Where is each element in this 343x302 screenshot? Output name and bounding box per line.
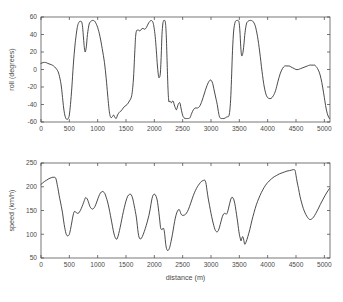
y-tick-label-roll-1: -40 xyxy=(27,101,37,108)
y-tick-label-speed-2: 150 xyxy=(26,207,37,214)
x-tick-label-roll-2: 1000 xyxy=(90,125,105,132)
y-tick-label-speed-3: 200 xyxy=(26,183,37,190)
x-tick-label-roll-7: 3500 xyxy=(232,125,247,132)
x-tick-label-roll-5: 2500 xyxy=(175,125,190,132)
y-tick-label-roll-0: -60 xyxy=(27,118,37,125)
y-tick-label-roll-2: -20 xyxy=(27,83,37,90)
x-tick-label-speed-9: 4500 xyxy=(289,261,304,268)
y-axis-title-speed: speed (km/h) xyxy=(7,190,16,232)
y-axis-title-roll: roll (degrees) xyxy=(7,48,16,90)
roll-vs-distance-chart: -60-40-200204060050010001500200025003000… xyxy=(0,0,343,151)
x-tick-label-roll-9: 4500 xyxy=(289,125,304,132)
x-tick-label-speed-8: 4000 xyxy=(260,261,275,268)
plot-box-speed xyxy=(41,163,330,258)
x-tick-label-roll-0: 0 xyxy=(39,125,43,132)
x-tick-label-speed-0: 0 xyxy=(39,261,43,268)
chart-panel-speed: 5010015020025005001000150020002500300035… xyxy=(0,151,343,302)
x-tick-label-speed-1: 500 xyxy=(64,261,75,268)
speed-vs-distance-chart: 5010015020025005001000150020002500300035… xyxy=(0,151,343,302)
figure-container: -60-40-200204060050010001500200025003000… xyxy=(0,0,343,302)
data-series-roll-roll xyxy=(41,20,329,119)
y-tick-label-speed-1: 100 xyxy=(26,231,37,238)
x-tick-label-speed-10: 5000 xyxy=(317,261,332,268)
x-tick-label-speed-3: 1500 xyxy=(119,261,134,268)
x-tick-label-speed-4: 2000 xyxy=(147,261,162,268)
y-tick-label-speed-0: 50 xyxy=(30,254,38,261)
y-tick-label-roll-3: 0 xyxy=(33,66,37,73)
chart-panel-roll: -60-40-200204060050010001500200025003000… xyxy=(0,0,343,151)
x-tick-label-speed-6: 3000 xyxy=(204,261,219,268)
x-tick-label-speed-2: 1000 xyxy=(90,261,105,268)
x-axis-title-speed: distance (m) xyxy=(166,273,206,282)
x-tick-label-roll-4: 2000 xyxy=(147,125,162,132)
y-tick-label-roll-5: 40 xyxy=(30,31,38,38)
x-tick-label-roll-1: 500 xyxy=(64,125,75,132)
x-tick-label-speed-5: 2500 xyxy=(175,261,190,268)
x-tick-label-roll-6: 3000 xyxy=(204,125,219,132)
y-tick-label-speed-4: 250 xyxy=(26,159,37,166)
plot-box-roll xyxy=(41,17,330,122)
y-tick-label-roll-6: 60 xyxy=(30,13,38,20)
x-tick-label-roll-10: 5000 xyxy=(317,125,332,132)
data-series-speed-speed xyxy=(41,170,329,251)
y-tick-label-roll-4: 20 xyxy=(30,48,38,55)
x-tick-label-roll-3: 1500 xyxy=(119,125,134,132)
x-tick-label-speed-7: 3500 xyxy=(232,261,247,268)
x-tick-label-roll-8: 4000 xyxy=(260,125,275,132)
